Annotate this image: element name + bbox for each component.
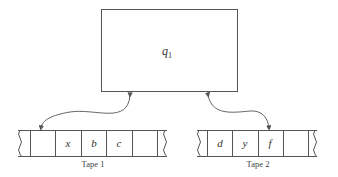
turing-machine-diagram: q1 x b c Tape 1 d y f Ta (0, 0, 338, 177)
tape2-cell: f (268, 137, 273, 149)
state-label: q1 (162, 44, 172, 60)
tape2-label: Tape 2 (247, 159, 270, 169)
tape1-cell: b (91, 137, 97, 149)
tape2-cell: d (217, 137, 223, 149)
tape1-head-arrow (41, 95, 130, 128)
tape1-cell: x (65, 137, 71, 149)
tape-2: d y f Tape 2 (197, 130, 317, 169)
tape2-cell: y (242, 137, 248, 149)
control-unit: q1 (102, 10, 238, 92)
tape2-right-break (314, 130, 317, 157)
tape1-right-break (164, 130, 167, 157)
tape1-cell: c (117, 137, 122, 149)
tape2-head-arrow (208, 95, 269, 128)
tape-1: x b c Tape 1 (18, 130, 167, 169)
tape2-left-break (198, 130, 201, 157)
tape1-left-break (19, 130, 22, 157)
tape1-label: Tape 1 (82, 159, 105, 169)
